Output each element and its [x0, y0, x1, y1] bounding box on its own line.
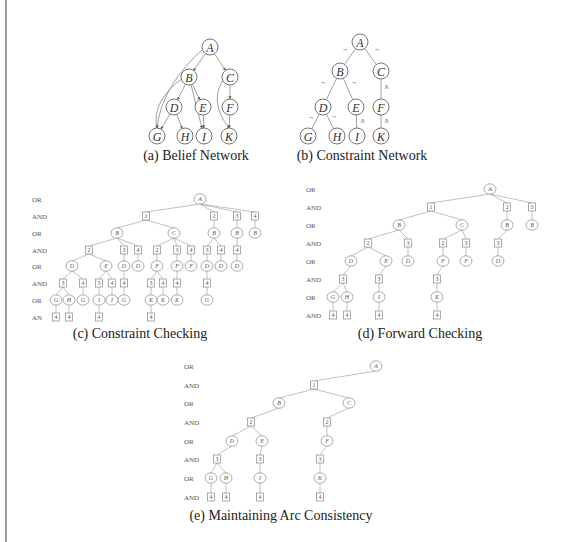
or-node-I: I [254, 473, 266, 483]
or-node-I: I [106, 295, 118, 305]
node-A: A [202, 39, 218, 55]
svg-text:3: 3 [436, 276, 439, 282]
svg-text:K: K [224, 130, 234, 144]
svg-text:3: 3 [407, 240, 410, 246]
and-node-3: 3 [204, 246, 211, 254]
svg-text:G: G [304, 130, 313, 144]
constraint-network-figure: ¬¬¬¬∧¬¬∧∧ABCDEFGHIK [300, 34, 389, 144]
and-node-4: 4 [257, 493, 264, 501]
or-node-K: K [431, 292, 443, 302]
svg-text:2: 2 [326, 419, 329, 425]
node-D: D [315, 99, 331, 115]
or-node-G: G [205, 473, 217, 483]
and-node-3: 3 [434, 275, 441, 283]
svg-text:G: G [209, 475, 214, 481]
caption-maintaining-arc-consistency: (e) Maintaining Arc Consistency [189, 508, 372, 524]
tree-edge [443, 230, 462, 239]
svg-text:4: 4 [319, 494, 322, 500]
or-node-K: K [157, 295, 169, 305]
svg-text:3: 3 [319, 456, 322, 462]
svg-text:3: 3 [123, 247, 126, 253]
or-node-B: B [111, 228, 123, 238]
svg-text:3: 3 [531, 204, 534, 210]
svg-text:H: H [344, 294, 350, 300]
svg-text:4: 4 [98, 314, 101, 320]
svg-text:D: D [218, 263, 224, 269]
tree-edge [498, 230, 507, 239]
and-node-4: 4 [53, 313, 60, 321]
tree-edge [207, 238, 214, 246]
and-node-4: 4 [109, 279, 116, 287]
tree-edge [151, 271, 157, 279]
node-E: E [348, 99, 364, 115]
node-C: C [222, 69, 238, 85]
or-node-B: B [231, 228, 243, 238]
and-node-2: 2 [86, 246, 93, 254]
svg-text:B: B [212, 230, 216, 236]
and-node-4: 4 [252, 212, 259, 220]
svg-text:3: 3 [342, 276, 345, 282]
svg-text:B: B [505, 222, 509, 228]
or-node-K: K [171, 295, 183, 305]
caption-forward-checking: (d) Forward Checking [358, 326, 482, 342]
and-node-3: 3 [317, 455, 324, 463]
tree-edge [379, 266, 386, 275]
svg-text:A: A [373, 363, 378, 369]
or-node-D: D [215, 261, 227, 271]
and-node-4: 4 [208, 493, 215, 501]
svg-text:4: 4 [176, 280, 179, 286]
svg-text:3: 3 [176, 247, 179, 253]
svg-text:G: G [81, 297, 86, 303]
tree-edge [343, 266, 351, 275]
and-node-2: 2 [504, 203, 511, 211]
tree-edge [89, 254, 106, 261]
tree-edge [200, 204, 237, 212]
edge-D-H [177, 114, 182, 128]
or-node-C: C [456, 220, 468, 230]
svg-text:D: D [318, 101, 328, 115]
or-node-G: G [327, 292, 339, 302]
svg-text:3: 3 [150, 280, 153, 286]
tree-edge [279, 389, 314, 398]
level-label-and: AND [32, 280, 47, 288]
tree-edge [368, 247, 386, 256]
tree-edge [333, 283, 343, 292]
svg-text:2: 2 [213, 213, 216, 219]
tree-edge [72, 254, 89, 261]
edge-B-D [326, 78, 336, 100]
svg-text:E: E [259, 438, 264, 444]
and-node-4: 4 [96, 313, 103, 321]
tree-edge [214, 238, 221, 246]
or-node-D: D [66, 261, 78, 271]
node-I: I [349, 128, 365, 144]
svg-text:C: C [377, 65, 386, 79]
tree-edge [490, 194, 532, 203]
node-H: H [329, 128, 345, 144]
node-F: F [373, 99, 389, 115]
tree-edge [343, 283, 347, 292]
tree-edge [437, 266, 443, 275]
and-node-2: 2 [324, 418, 331, 426]
tree-edge [351, 247, 368, 256]
tree-edge [431, 194, 490, 203]
svg-text:4: 4 [332, 312, 335, 318]
tree-edge [63, 271, 72, 279]
and-node-3: 3 [234, 212, 241, 220]
svg-text:A: A [205, 41, 214, 55]
svg-text:3: 3 [216, 456, 219, 462]
svg-text:4: 4 [68, 314, 71, 320]
level-label-and: AND [184, 419, 199, 427]
or-node-C: C [343, 398, 355, 408]
constraint-mark: ¬ [309, 114, 313, 122]
svg-text:F: F [324, 438, 329, 444]
edge-B-E [192, 84, 199, 100]
or-node-B: B [208, 228, 220, 238]
svg-text:3: 3 [259, 456, 262, 462]
svg-text:B: B [530, 222, 534, 228]
and-node-1: 1 [428, 203, 435, 211]
or-node-D: D [402, 256, 414, 266]
svg-text:F: F [463, 258, 468, 264]
svg-text:H: H [180, 130, 191, 144]
svg-text:K: K [376, 130, 386, 144]
or-node-D: D [345, 256, 357, 266]
